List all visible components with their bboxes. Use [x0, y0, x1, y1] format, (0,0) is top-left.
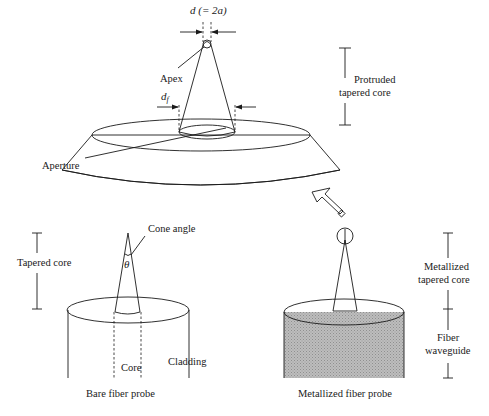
cladding-label: Cladding	[168, 356, 207, 367]
diameter-label: d (= 2a)	[190, 4, 227, 17]
cone-angle-label: Cone angle	[148, 223, 196, 234]
protruded-label-1: Protruded	[354, 74, 396, 85]
protruded-label-2: tapered core	[339, 87, 391, 98]
fiber-probe-diagram: d (= 2a) Apex df Aperture Protruded tape…	[0, 0, 489, 416]
top-probe: d (= 2a) Apex df Aperture Protruded tape…	[42, 4, 396, 185]
theta-label: θ	[124, 258, 130, 270]
df-label: df	[161, 90, 171, 104]
tapered-core-label: Tapered core	[17, 257, 72, 268]
protruded-cone	[179, 42, 235, 137]
metallized-fiber-probe: Metallized tapered core Fiber waveguide …	[284, 228, 471, 399]
fiber-label-2: waveguide	[425, 345, 471, 356]
metallized-cylinder	[284, 312, 404, 378]
metallized-cone	[333, 240, 357, 311]
bare-tapered-cone	[115, 233, 140, 314]
cladding-top	[67, 297, 189, 323]
metallized-label-2: tapered core	[418, 274, 470, 285]
bare-caption: Bare fiber probe	[86, 388, 155, 399]
metallized-label-1: Metallized	[424, 261, 470, 272]
aperture-label: Aperture	[42, 160, 80, 171]
metallized-caption: Metallized fiber probe	[298, 388, 392, 399]
magnify-arrow	[312, 188, 345, 217]
bare-fiber-probe: θ Cone angle Tapered core Core Cladding …	[17, 223, 207, 399]
core-label: Core	[121, 362, 142, 373]
fiber-label-1: Fiber	[437, 332, 460, 343]
apex-label: Apex	[160, 73, 183, 84]
